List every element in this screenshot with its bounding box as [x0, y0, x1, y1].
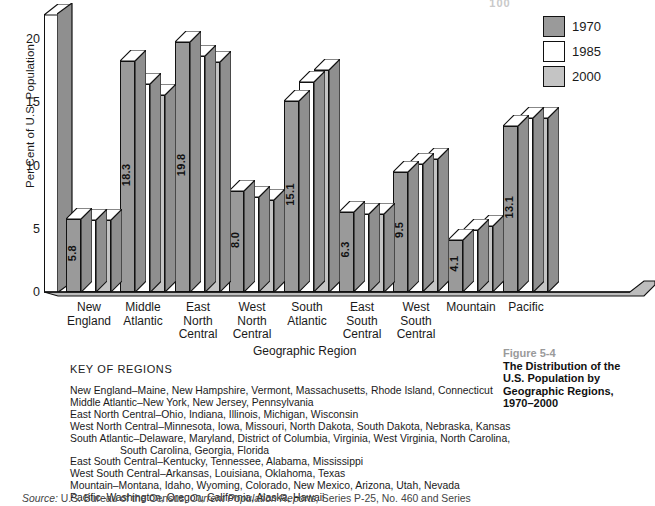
bar-mountain-1970[interactable]: 4.1: [448, 229, 474, 292]
bar-side-face: [244, 180, 255, 292]
bar-top-face: [299, 71, 325, 82]
bar-west-south-central-1970[interactable]: 9.5: [393, 161, 419, 292]
bar-value-label: 18.3: [120, 61, 135, 288]
bar-value-label: 19.8: [175, 42, 190, 288]
legend-swatch-1985: [543, 41, 565, 62]
bar-value-label: 6.3: [339, 212, 354, 288]
bar-value-label: 5.8: [66, 219, 81, 288]
bar-new-england-1970[interactable]: 5.8: [66, 208, 92, 292]
legend-label-1970: 1970: [572, 19, 601, 34]
bar-middle-atlantic-1970[interactable]: 18.3: [120, 50, 146, 292]
bar-side-face: [384, 203, 395, 292]
bar-side-face: [96, 209, 107, 292]
y-tick-label-5: 5: [14, 222, 40, 236]
bar-value-label: 15.1: [284, 101, 299, 288]
bar-side-face: [408, 161, 419, 292]
bar-side-face: [493, 215, 504, 292]
bar-top-face: [229, 180, 255, 191]
figure-number: Figure 5-4: [503, 347, 620, 360]
legend-label-1985: 1985: [572, 44, 601, 59]
bar-top-face: [339, 201, 365, 212]
bar-side-face: [518, 115, 529, 292]
bar-side-face: [205, 45, 216, 292]
bar-side-face: [299, 90, 310, 292]
bar-side-face: [329, 59, 340, 292]
bar-south-atlantic-1970[interactable]: 15.1: [284, 90, 310, 292]
figure-root: 100 Per Cent of U.S. Population 05101520…: [0, 0, 655, 506]
key-region-line: New England–Maine, New Hampshire, Vermon…: [70, 385, 510, 397]
bar-top-face: [175, 31, 201, 42]
source-prefix: Source:: [22, 493, 58, 504]
legend-item-1985[interactable]: 1985: [543, 41, 601, 62]
legend-swatch-1970: [543, 16, 565, 37]
key-region-line: Mountain–Montana, Idaho, Wyoming, Colora…: [70, 480, 510, 492]
bar-side-face: [259, 186, 270, 292]
bar-side-face: [81, 208, 92, 292]
figure-title-line-1: The Distribution of the: [503, 360, 620, 373]
bar-side-face: [135, 50, 146, 292]
bar-east-north-central-1970[interactable]: 19.8: [175, 31, 201, 292]
x-label-pacific: Pacific: [489, 301, 563, 315]
bar-top-face: [314, 59, 340, 70]
source-note: Source: U.S. Bureau of the Census, Curre…: [22, 493, 471, 504]
legend-item-2000[interactable]: 2000: [543, 66, 601, 87]
bar-top-face: [503, 115, 529, 126]
bar-side-face: [190, 31, 201, 292]
key-of-regions-list: New England–Maine, New Hampshire, Vermon…: [70, 385, 510, 504]
bar-side-face: [274, 189, 285, 292]
bar-side-face: [438, 148, 449, 292]
bar-side-face: [150, 73, 161, 293]
bar-value-label: 4.1: [448, 240, 463, 288]
key-region-line: East North Central–Ohio, Indiana, Illino…: [70, 409, 510, 421]
bar-top-face: [66, 208, 92, 219]
bar-side-face: [533, 107, 544, 292]
bar-value-label: 9.5: [393, 172, 408, 288]
bar-side-face: [111, 209, 122, 292]
bar-top-face: [284, 90, 310, 101]
y-tick-label-0: 0: [14, 285, 40, 299]
figure-title-line-4: 1970–2000: [503, 397, 620, 410]
bar-side-face: [354, 201, 365, 292]
key-of-regions-title: KEY OF REGIONS: [70, 363, 172, 375]
bar-value-label: 8.0: [229, 191, 244, 288]
bar-side-face: [220, 51, 231, 292]
legend-label-2000: 2000: [572, 69, 601, 84]
source-italic: Current Population Reports,: [190, 493, 319, 504]
bar-side-face: [369, 203, 380, 292]
figure-title-line-2: U.S. Population by: [503, 372, 620, 385]
figure-title-line-3: Geographic Regions,: [503, 385, 620, 398]
bar-side-face: [165, 84, 176, 292]
bar-pacific-1970[interactable]: 13.1: [503, 115, 529, 292]
bar-west-north-central-1970[interactable]: 8.0: [229, 180, 255, 292]
y-tick-label-10: 10: [14, 159, 40, 173]
bar-value-label: 13.1: [503, 126, 518, 288]
key-region-line: Middle Atlantic–New York, New Jersey, Pe…: [70, 397, 510, 409]
key-region-line: East South Central–Kentucky, Tennessee, …: [70, 456, 510, 468]
bar-side-face: [548, 107, 559, 292]
figure-caption: Figure 5-4 The Distribution of the U.S. …: [503, 347, 620, 410]
bar-top-face: [448, 229, 474, 240]
key-region-line: West South Central–Arkansas, Louisiana, …: [70, 468, 510, 480]
bar-side-face: [314, 71, 325, 292]
key-region-line: South Carolina, Georgia, Florida: [70, 445, 510, 457]
source-text-a: U.S. Bureau of the Census,: [58, 493, 190, 504]
key-region-line: South Atlantic–Delaware, Maryland, Distr…: [70, 433, 510, 445]
x-axis-title: Geographic Region: [253, 344, 356, 358]
legend-swatch-2000: [543, 66, 565, 87]
legend-item-1970[interactable]: 1970: [543, 16, 601, 37]
source-text-b: Series P-25, No. 460 and Series: [319, 493, 471, 504]
bar-top-face: [120, 50, 146, 61]
bar-side-face: [423, 153, 434, 292]
key-region-line: West North Central–Minnesota, Iowa, Miss…: [70, 421, 510, 433]
bar-east-south-central-1970[interactable]: 6.3: [339, 201, 365, 292]
bar-top-face: [393, 161, 419, 172]
